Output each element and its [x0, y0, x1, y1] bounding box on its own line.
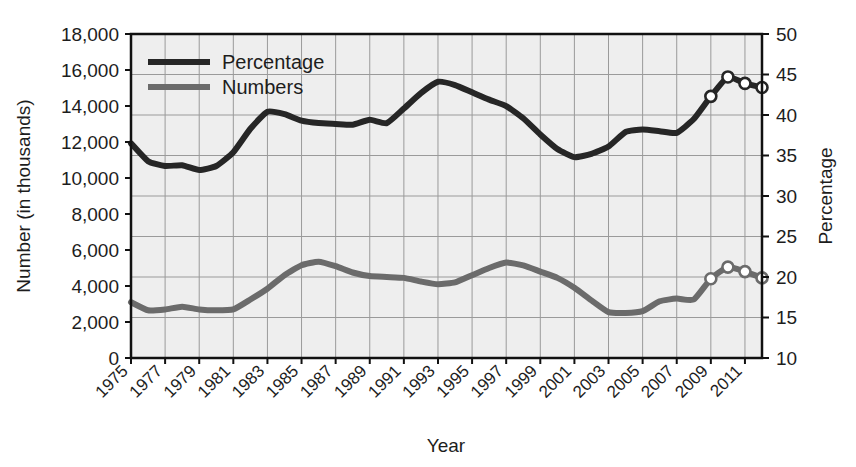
data-point-marker [722, 262, 733, 273]
y-right-tick-label: 10 [776, 348, 797, 369]
y-left-tick-label: 12,000 [61, 132, 119, 153]
y-left-tick-label: 10,000 [61, 168, 119, 189]
y-axis-left-title: Number (in thousands) [13, 99, 34, 292]
y-right-tick-label: 40 [776, 105, 797, 126]
legend-label-numbers: Numbers [222, 76, 303, 98]
chart-figure: 02,0004,0006,0008,00010,00012,00014,0001… [0, 0, 856, 467]
y-axis-right-title: Percentage [815, 147, 836, 244]
y-right-tick-label: 45 [776, 64, 797, 85]
x-axis-title: Year [427, 435, 466, 456]
y-right-tick-label: 25 [776, 226, 797, 247]
data-point-marker [705, 91, 716, 102]
data-point-marker [739, 266, 750, 277]
y-right-tick-label: 20 [776, 267, 797, 288]
y-left-tick-label: 14,000 [61, 96, 119, 117]
data-point-marker [705, 273, 716, 284]
y-left-tick-label: 6,000 [71, 240, 119, 261]
y-left-tick-label: 16,000 [61, 60, 119, 81]
y-left-tick-label: 4,000 [71, 276, 119, 297]
y-left-tick-label: 2,000 [71, 312, 119, 333]
y-right-tick-label: 35 [776, 145, 797, 166]
y-left-tick-label: 18,000 [61, 24, 119, 45]
right-axis-tick-labels: 101520253035404550 [762, 24, 797, 369]
data-point-marker [739, 78, 750, 89]
y-right-tick-label: 50 [776, 24, 797, 45]
y-left-tick-label: 8,000 [71, 204, 119, 225]
dual-axis-line-chart: 02,0004,0006,0008,00010,00012,00014,0001… [0, 0, 856, 467]
legend-label-percentage: Percentage [222, 51, 324, 73]
y-right-tick-label: 15 [776, 307, 797, 328]
data-point-marker [722, 71, 733, 82]
y-right-tick-label: 30 [776, 186, 797, 207]
